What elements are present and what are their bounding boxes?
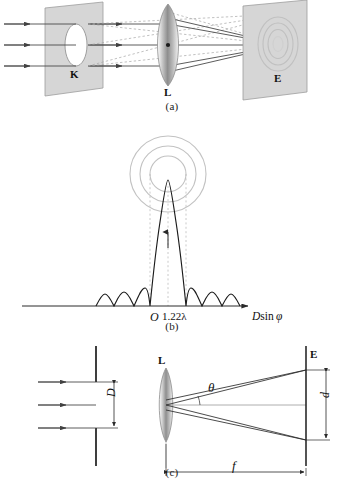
label-spot-diameter-d: d [318,392,333,398]
label-aperture-k: K [70,68,79,80]
label-focal-length-f: f [232,458,236,474]
panel-b-drawing [0,128,345,340]
x-axis-symbol-sin: sin [260,310,273,322]
label-lens-l: L [164,86,171,98]
label-screen-e: E [274,72,281,84]
theta-angle-arc [198,396,200,405]
lens-center-dot [166,43,170,47]
x-axis-symbol-phi: φ [276,310,282,322]
panel-c-caption: (c) [152,466,192,478]
panel-b-intensity-profile: O 1.22λ Dsin φ (b) [0,128,345,340]
label-angle-theta: θ [208,380,214,396]
airy-ring-middle [140,146,196,202]
dimension-d-spot [306,370,330,440]
panel-c-label-lens-l: L [158,354,165,366]
panel-c-geometry: D L θ E d f (c) [0,340,345,495]
panel-a-caption: (a) [152,100,192,112]
panel-c-incoming-rays [38,382,96,428]
label-aperture-diameter-d: D [104,388,119,397]
panel-a-setup: K L E (a) [0,0,345,128]
panel-c-label-screen-e: E [310,348,317,360]
panel-b-caption: (b) [152,320,192,332]
optics-figure: K L E (a) [0,0,345,495]
label-x-axis-dsinphi: Dsin φ [252,310,282,322]
